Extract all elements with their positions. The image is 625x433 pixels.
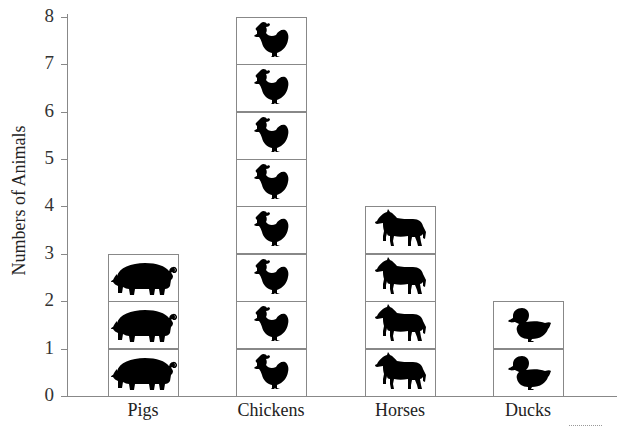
x-category-label: Horses bbox=[340, 400, 460, 421]
y-tick-mark bbox=[61, 396, 67, 397]
pictogram-cell bbox=[236, 17, 307, 65]
y-axis-label: Numbers of Animals bbox=[9, 126, 30, 276]
pictogram-cell bbox=[236, 64, 307, 112]
y-tick-mark bbox=[61, 254, 67, 255]
pictogram-cell bbox=[365, 349, 436, 397]
pictogram-cell bbox=[493, 349, 564, 397]
horse-icon bbox=[373, 352, 429, 394]
pig-icon bbox=[111, 305, 177, 345]
decorative-dotted-line bbox=[569, 425, 602, 426]
bar-chickens bbox=[236, 0, 307, 433]
chicken-icon bbox=[252, 257, 292, 299]
pictogram-cell bbox=[236, 301, 307, 349]
chicken-icon bbox=[252, 209, 292, 251]
x-category-label: Ducks bbox=[468, 400, 588, 421]
x-category-label: Chickens bbox=[211, 400, 331, 421]
y-tick-label: 3 bbox=[38, 243, 54, 263]
duck-icon bbox=[506, 306, 552, 344]
pictogram-cell bbox=[236, 112, 307, 160]
y-tick-label: 1 bbox=[38, 338, 54, 358]
duck-icon bbox=[506, 354, 552, 392]
y-tick-mark bbox=[61, 64, 67, 65]
y-tick-label: 4 bbox=[38, 195, 54, 215]
pictogram-cell bbox=[236, 159, 307, 207]
pictogram-cell bbox=[493, 301, 564, 349]
pictogram-cell bbox=[365, 206, 436, 254]
chicken-icon bbox=[252, 352, 292, 394]
y-tick-mark bbox=[61, 206, 67, 207]
y-tick-mark bbox=[61, 17, 67, 18]
y-tick-label: 7 bbox=[38, 53, 54, 73]
pictogram-cell bbox=[365, 254, 436, 302]
bar-pigs bbox=[108, 0, 179, 433]
y-tick-label: 5 bbox=[38, 148, 54, 168]
y-tick-mark bbox=[61, 112, 67, 113]
chicken-icon bbox=[252, 67, 292, 109]
y-tick-mark bbox=[61, 349, 67, 350]
pictogram-cell bbox=[108, 349, 179, 397]
chicken-icon bbox=[252, 115, 292, 157]
chicken-icon bbox=[252, 162, 292, 204]
pictogram-cell bbox=[108, 254, 179, 302]
y-tick-label: 2 bbox=[38, 290, 54, 310]
y-tick-label: 8 bbox=[38, 6, 54, 26]
pictogram-cell bbox=[236, 254, 307, 302]
pictograph-chart: Numbers of Animals 012345678 PigsChicken… bbox=[0, 0, 625, 433]
pig-icon bbox=[111, 258, 177, 298]
pictogram-cell bbox=[108, 301, 179, 349]
y-tick-label: 6 bbox=[38, 101, 54, 121]
chicken-icon bbox=[252, 304, 292, 346]
y-tick-mark bbox=[61, 301, 67, 302]
y-axis-line bbox=[67, 14, 68, 397]
y-tick-mark bbox=[61, 159, 67, 160]
pictogram-cell bbox=[365, 301, 436, 349]
pictogram-cell bbox=[236, 206, 307, 254]
pig-icon bbox=[111, 353, 177, 393]
bar-ducks bbox=[493, 0, 564, 433]
y-tick-label: 0 bbox=[38, 385, 54, 405]
chicken-icon bbox=[252, 20, 292, 62]
horse-icon bbox=[373, 209, 429, 251]
horse-icon bbox=[373, 257, 429, 299]
pictogram-cell bbox=[236, 349, 307, 397]
bar-horses bbox=[365, 0, 436, 433]
x-category-label: Pigs bbox=[83, 400, 203, 421]
horse-icon bbox=[373, 304, 429, 346]
